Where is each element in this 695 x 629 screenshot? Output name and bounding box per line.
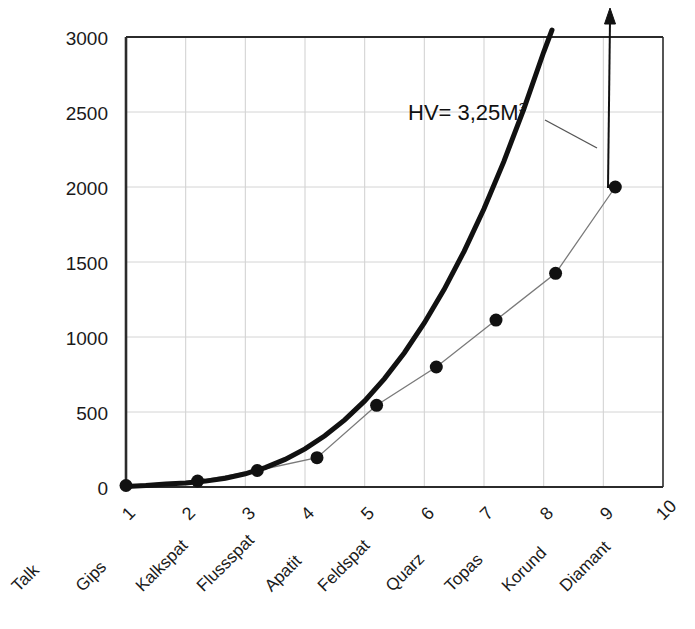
data-point-flussspat <box>311 451 324 464</box>
data-point-korund <box>609 181 622 194</box>
data-point-kalkspat <box>251 464 264 477</box>
diamond-arrow-icon <box>605 8 616 188</box>
fitted-curve <box>126 30 552 487</box>
data-point-markers <box>120 181 622 493</box>
annotation-leader-line <box>545 120 597 148</box>
data-point-talk <box>120 479 133 492</box>
plot-area <box>0 0 695 629</box>
data-point-topas <box>549 267 562 280</box>
formula-annotation-text: HV= 3,25M <box>408 100 519 125</box>
data-point-feldspat <box>430 361 443 374</box>
chart-figure: Vickershärte HV 3000 2500 2000 1500 1000… <box>0 0 695 629</box>
data-point-gips <box>191 475 204 488</box>
data-point-quarz <box>490 314 503 327</box>
formula-annotation: HV= 3,25M3 <box>408 100 526 126</box>
formula-annotation-exponent: 3 <box>519 100 527 115</box>
data-point-apatit <box>370 399 383 412</box>
measured-connector-line <box>126 187 615 486</box>
